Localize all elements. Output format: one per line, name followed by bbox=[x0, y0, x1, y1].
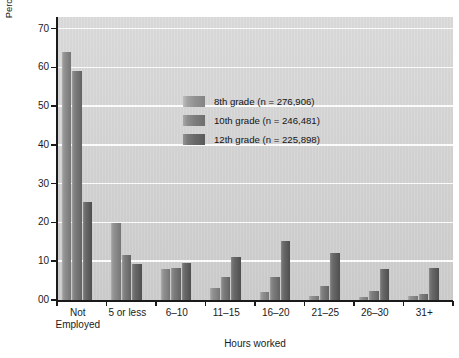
legend-label: 12th grade (n = 225,898) bbox=[214, 134, 320, 145]
bar bbox=[182, 263, 192, 300]
x-tick-mark bbox=[304, 301, 306, 306]
bar bbox=[122, 255, 132, 300]
x-tick-mark bbox=[205, 301, 207, 306]
x-tick-mark bbox=[56, 301, 58, 306]
x-axis-title: Hours worked bbox=[57, 338, 453, 349]
bar bbox=[161, 269, 171, 300]
bar bbox=[380, 269, 390, 300]
legend-item: 12th grade (n = 225,898) bbox=[183, 131, 383, 148]
x-tick-mark bbox=[452, 301, 454, 306]
y-tick-label: 40 bbox=[9, 140, 49, 150]
y-tick-label: 30 bbox=[9, 179, 49, 189]
bar bbox=[221, 277, 231, 300]
x-tick-mark bbox=[403, 301, 405, 306]
x-tick-mark bbox=[353, 301, 355, 306]
bar bbox=[330, 253, 340, 300]
bar bbox=[171, 268, 181, 300]
bar bbox=[270, 277, 280, 300]
bar bbox=[320, 286, 330, 300]
bar bbox=[281, 241, 291, 300]
y-tick-label: 20 bbox=[9, 217, 49, 227]
bar bbox=[210, 288, 220, 300]
y-axis-line bbox=[56, 17, 58, 301]
x-tick-mark bbox=[254, 301, 256, 306]
gridline bbox=[57, 28, 453, 30]
x-category-label: 31+ bbox=[384, 307, 459, 319]
legend-label: 8th grade (n = 276,906) bbox=[214, 96, 315, 107]
bar bbox=[429, 268, 439, 300]
scan-artifact-text bbox=[8, 0, 338, 8]
x-tick-mark bbox=[155, 301, 157, 306]
bar bbox=[72, 71, 82, 301]
legend-swatch-icon bbox=[183, 115, 205, 126]
legend-item: 10th grade (n = 246,481) bbox=[183, 112, 383, 129]
y-tick-label: 60 bbox=[9, 62, 49, 72]
bar bbox=[83, 202, 93, 300]
bar bbox=[369, 291, 379, 300]
y-tick-label: 00 bbox=[9, 295, 49, 305]
y-axis-ticks: 0010203040506070 bbox=[0, 0, 49, 358]
legend-label: 10th grade (n = 246,481) bbox=[214, 115, 320, 126]
bar bbox=[111, 223, 121, 300]
bar-chart-figure: Percentage of employed students during t… bbox=[0, 0, 459, 358]
bar bbox=[62, 52, 72, 300]
x-tick-mark bbox=[106, 301, 108, 306]
gridline bbox=[57, 183, 453, 185]
plot-area: 8th grade (n = 276,906)10th grade (n = 2… bbox=[57, 17, 453, 300]
y-tick-label: 50 bbox=[9, 101, 49, 111]
legend-swatch-icon bbox=[183, 96, 205, 107]
y-tick-label: 70 bbox=[9, 24, 49, 34]
legend-item: 8th grade (n = 276,906) bbox=[183, 93, 383, 110]
bar bbox=[132, 264, 142, 300]
gridline bbox=[57, 67, 453, 69]
legend: 8th grade (n = 276,906)10th grade (n = 2… bbox=[183, 93, 383, 150]
legend-swatch-icon bbox=[183, 134, 205, 145]
bar bbox=[260, 292, 270, 300]
bar bbox=[231, 257, 241, 300]
y-tick-label: 10 bbox=[9, 256, 49, 266]
